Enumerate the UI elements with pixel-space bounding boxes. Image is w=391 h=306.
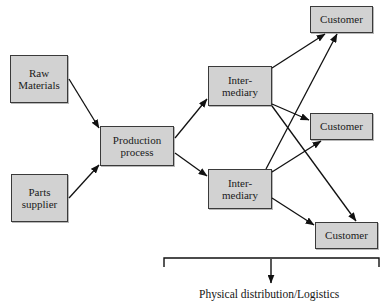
node-parts-supplier[interactable]: Parts supplier	[11, 174, 68, 222]
edge-intermediary-upper-to-customer-middle	[272, 104, 309, 120]
edge-intermediary-lower-to-customer-top	[266, 34, 337, 169]
edge-intermediary-upper-to-customer-top	[272, 34, 325, 68]
supply-chain-diagram: Raw Materials Parts supplier Production …	[0, 0, 391, 306]
node-raw-materials[interactable]: Raw Materials	[10, 55, 68, 103]
node-customer-bottom[interactable]: Customer	[315, 222, 378, 249]
node-intermediary-upper[interactable]: Inter- mediary	[208, 66, 272, 106]
node-intermediary-lower[interactable]: Inter- mediary	[208, 169, 272, 209]
distribution-caption: Physical distribution/Logistics	[199, 288, 339, 300]
node-production-process[interactable]: Production process	[100, 126, 174, 166]
edge-production-to-intermediary-lower	[175, 153, 207, 176]
node-customer-middle[interactable]: Customer	[310, 113, 373, 140]
edge-raw-to-production	[69, 79, 99, 128]
edge-intermediary-lower-to-customer-middle	[272, 141, 321, 172]
connector-layer	[0, 0, 391, 306]
edge-intermediary-lower-to-customer-bottom	[272, 198, 314, 225]
edge-parts-to-production	[69, 165, 99, 198]
node-customer-top[interactable]: Customer	[310, 6, 373, 33]
edge-production-to-intermediary-upper	[175, 99, 207, 138]
